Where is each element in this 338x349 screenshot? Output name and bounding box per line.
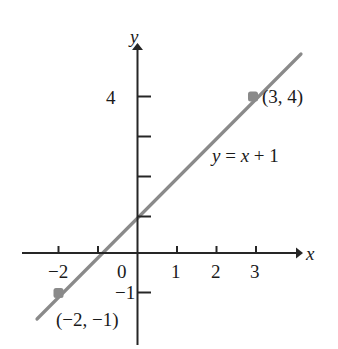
- equation-constant: + 1: [249, 145, 279, 166]
- point-label-3-4: (3, 4): [262, 87, 303, 106]
- y-tick-label-4: 4: [106, 88, 116, 107]
- x-axis-ticks: [59, 246, 257, 253]
- x-tick-label-3: 3: [250, 262, 260, 281]
- equation-equals: =: [220, 145, 240, 166]
- data-point--2--1: [54, 288, 64, 298]
- data-point-3-4: [248, 92, 258, 102]
- x-axis-group: [22, 248, 303, 259]
- data-point-markers: [54, 92, 259, 299]
- plot-canvas: [0, 0, 338, 349]
- x-tick-label-0: 0: [117, 262, 127, 281]
- point-label--2--1: (−2, −1): [56, 310, 119, 329]
- graph-figure: y x 4 −1 −2 0 1 2 3 (3, 4) (−2, −1) y = …: [0, 0, 338, 349]
- equation-variable: x: [241, 145, 249, 166]
- x-axis-label: x: [306, 244, 314, 263]
- x-tick-label-2: 2: [211, 262, 221, 281]
- x-tick-label--2: −2: [48, 262, 68, 281]
- x-axis-arrow: [296, 248, 303, 259]
- y-tick-label--1: −1: [115, 283, 135, 302]
- y-axis-ticks: [138, 97, 152, 293]
- x-tick-label-1: 1: [171, 262, 181, 281]
- y-axis-label: y: [130, 27, 138, 46]
- equation-annotation: y = x + 1: [212, 146, 279, 165]
